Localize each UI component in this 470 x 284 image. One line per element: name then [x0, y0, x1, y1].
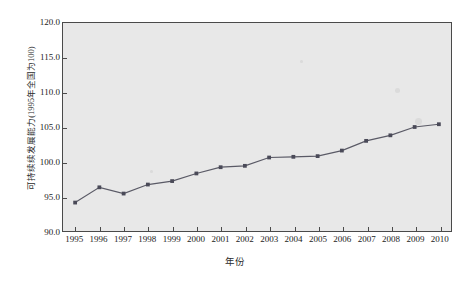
x-tick-label: 1999	[163, 234, 181, 244]
x-tick-mark	[124, 227, 125, 231]
x-tick-mark	[75, 227, 76, 231]
y-tick-label: 120.0	[22, 17, 60, 27]
data-point-marker	[146, 183, 150, 187]
data-point-marker	[194, 172, 198, 176]
x-tick-label: 2001	[211, 234, 229, 244]
data-point-marker	[122, 192, 126, 196]
y-tick-label: 90.0	[22, 227, 60, 237]
y-tick-label: 105.0	[22, 122, 60, 132]
x-tick-label: 2000	[187, 234, 205, 244]
x-tick-mark	[392, 227, 393, 231]
x-tick-mark	[319, 227, 320, 231]
x-tick-mark	[343, 227, 344, 231]
x-tick-mark	[416, 227, 417, 231]
line-series	[63, 23, 451, 231]
x-tick-mark	[221, 227, 222, 231]
x-tick-label: 2008	[382, 234, 400, 244]
data-point-marker	[243, 164, 247, 168]
x-tick-label: 1996	[90, 234, 108, 244]
y-tick-mark	[63, 93, 67, 94]
x-tick-label: 2003	[260, 234, 278, 244]
x-tick-mark	[148, 227, 149, 231]
x-tick-label: 2004	[285, 234, 303, 244]
data-point-marker	[73, 201, 77, 205]
plot-area	[62, 22, 452, 232]
x-tick-mark	[270, 227, 271, 231]
y-tick-mark	[63, 58, 67, 59]
x-tick-label: 1998	[138, 234, 156, 244]
x-tick-label: 2005	[309, 234, 327, 244]
data-point-marker	[340, 149, 344, 153]
data-point-marker	[219, 165, 223, 169]
x-tick-mark	[173, 227, 174, 231]
series-polyline	[75, 124, 439, 202]
x-tick-mark	[368, 227, 369, 231]
data-point-marker	[267, 156, 271, 160]
plot-inner	[63, 23, 451, 231]
y-tick-mark	[63, 198, 67, 199]
x-tick-mark	[197, 227, 198, 231]
chart-figure: 可持续续发展能力(1995年全国为100) 120.0115.0110.0105…	[0, 0, 470, 284]
y-tick-label: 110.0	[22, 87, 60, 97]
data-point-marker	[388, 133, 392, 137]
x-tick-label: 2010	[431, 234, 449, 244]
x-tick-label: 2002	[236, 234, 254, 244]
data-point-marker	[437, 122, 441, 126]
y-tick-label: 100.0	[22, 157, 60, 167]
y-tick-label: 115.0	[22, 52, 60, 62]
x-tick-mark	[441, 227, 442, 231]
data-point-marker	[291, 155, 295, 159]
x-tick-label: 1995	[65, 234, 83, 244]
y-tick-mark	[63, 163, 67, 164]
x-tick-mark	[295, 227, 296, 231]
x-axis-title: 年份	[0, 254, 470, 268]
x-axis-tick-labels: 1995199619971998199920002001200220032004…	[62, 234, 452, 254]
data-point-marker	[364, 139, 368, 143]
data-point-marker	[170, 179, 174, 183]
x-tick-label: 2006	[333, 234, 351, 244]
y-tick-mark	[63, 128, 67, 129]
data-point-marker	[413, 125, 417, 129]
data-point-marker	[97, 185, 101, 189]
x-tick-label: 2007	[358, 234, 376, 244]
x-tick-label: 1997	[114, 234, 132, 244]
x-tick-mark	[246, 227, 247, 231]
y-axis-tick-labels: 120.0115.0110.0105.0100.095.090.0	[16, 0, 60, 284]
data-point-marker	[316, 154, 320, 158]
y-tick-label: 95.0	[22, 192, 60, 202]
x-tick-mark	[100, 227, 101, 231]
x-tick-label: 2009	[406, 234, 424, 244]
